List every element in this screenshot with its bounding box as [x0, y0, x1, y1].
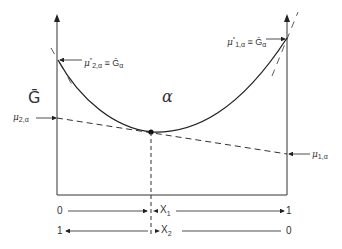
phase-label-alpha: α	[162, 89, 173, 105]
x1-right-value: 1	[286, 206, 292, 216]
x2-tick-arrow-icon	[155, 229, 160, 233]
x1-left-value: 0	[57, 206, 63, 216]
free-energy-curve	[58, 38, 287, 132]
right-axis-arrow-icon	[284, 14, 290, 22]
x1-tick-arrow-icon	[153, 209, 158, 213]
x2-right-value: 0	[286, 226, 292, 236]
left-axis-arrow-icon	[54, 14, 60, 22]
mu1-star-label: μ*1,α ≡ Ḡα	[227, 34, 266, 50]
mu2-label: μ2,α	[13, 112, 29, 125]
common-tangent-line	[57, 118, 287, 154]
y-axis-label-gbar: Ḡ	[28, 90, 40, 106]
x2-left-value: 1	[57, 226, 63, 236]
x1-label: X1	[160, 205, 171, 219]
x2-label: X2	[161, 225, 172, 239]
mu2-star-label: μ*2,α ≡ Ḡα	[84, 55, 123, 71]
mu1-label: μ1,α	[312, 149, 328, 162]
